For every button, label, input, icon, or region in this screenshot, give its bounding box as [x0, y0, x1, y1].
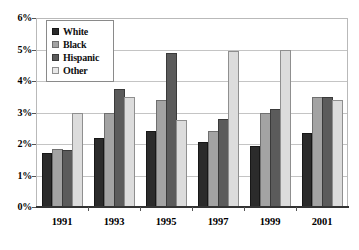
bar-other-1997	[228, 51, 239, 207]
legend-swatch-icon	[52, 41, 59, 48]
y-axis: 0%1%2%3%4%5%6%	[0, 0, 32, 250]
bar-white-1999	[250, 146, 261, 207]
x-axis-tick	[296, 207, 297, 211]
x-axis-tick-label: 1995	[140, 216, 192, 228]
chart-legend: WhiteBlackHispanicOther	[46, 20, 114, 82]
bar-white-1993	[94, 138, 105, 207]
bar-other-1995	[176, 120, 187, 207]
bar-black-1999	[260, 113, 271, 208]
legend-item-hispanic: Hispanic	[52, 51, 108, 64]
x-axis-tick-label: 1997	[192, 216, 244, 228]
bar-black-1993	[104, 113, 115, 208]
y-axis-tick-label: 3%	[0, 108, 32, 118]
bar-hispanic-1999	[270, 109, 281, 207]
bar-other-1991	[72, 113, 83, 208]
x-axis: 199119931995199719992001	[36, 216, 348, 236]
x-axis-tick-label: 1991	[36, 216, 88, 228]
x-axis-tick-label: 1999	[244, 216, 296, 228]
legend-item-black: Black	[52, 38, 108, 51]
bar-white-2001	[302, 133, 313, 207]
x-axis-tick-label: 2001	[296, 216, 348, 228]
bar-white-1991	[42, 153, 53, 207]
y-axis-tick-label: 4%	[0, 76, 32, 86]
bar-hispanic-2001	[322, 97, 333, 207]
bar-other-1999	[280, 50, 291, 208]
x-axis-tick	[244, 207, 245, 211]
x-axis-tick	[140, 207, 141, 211]
bar-white-1997	[198, 142, 209, 207]
legend-swatch-icon	[52, 54, 59, 61]
legend-swatch-icon	[52, 67, 59, 74]
bar-hispanic-1995	[166, 53, 177, 207]
bar-black-1995	[156, 100, 167, 207]
legend-label: Other	[63, 65, 88, 76]
y-axis-tick-label: 0%	[0, 202, 32, 212]
legend-label: Hispanic	[63, 52, 99, 63]
bar-chart: 0%1%2%3%4%5%6% 199119931995199719992001 …	[0, 0, 359, 250]
bar-black-2001	[312, 97, 323, 207]
legend-item-white: White	[52, 25, 108, 38]
legend-label: Black	[63, 39, 86, 50]
x-axis-tick	[88, 207, 89, 211]
legend-swatch-icon	[52, 28, 59, 35]
y-axis-tick-label: 6%	[0, 13, 32, 23]
legend-item-other: Other	[52, 64, 108, 77]
bar-hispanic-1997	[218, 119, 229, 207]
bar-black-1997	[208, 131, 219, 207]
x-axis-tick	[192, 207, 193, 211]
x-axis-tick-label: 1993	[88, 216, 140, 228]
bar-black-1991	[52, 149, 63, 207]
y-axis-tick-label: 1%	[0, 171, 32, 181]
bar-hispanic-1991	[62, 150, 73, 207]
bar-white-1995	[146, 131, 157, 207]
legend-label: White	[63, 26, 88, 37]
bar-other-1993	[124, 97, 135, 207]
y-axis-tick-label: 5%	[0, 45, 32, 55]
bar-hispanic-1993	[114, 89, 125, 207]
y-axis-tick-label: 2%	[0, 139, 32, 149]
bar-other-2001	[332, 100, 343, 207]
